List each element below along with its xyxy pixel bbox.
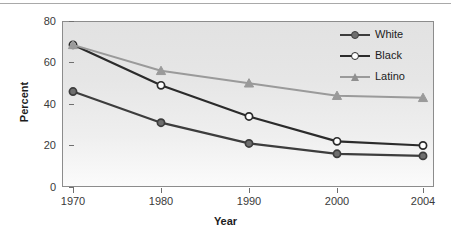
legend-swatch-latino — [340, 71, 370, 82]
legend-label-black: Black — [375, 49, 402, 61]
marker-open-circle — [419, 142, 426, 149]
legend-item-white[interactable]: White — [340, 28, 405, 40]
legend-label-white: White — [375, 28, 403, 40]
marker-open-circle — [333, 138, 340, 145]
marker-filled-circle — [157, 119, 164, 126]
marker-filled-circle — [245, 140, 252, 147]
marker-filled-circle — [69, 88, 76, 95]
legend-item-black[interactable]: Black — [340, 49, 405, 61]
chart-figure: 80 60 40 20 0 Percent 1970 1980 1990 200… — [0, 0, 451, 239]
marker-filled-circle — [419, 152, 426, 159]
series-white — [69, 88, 426, 160]
open-circle-icon — [351, 52, 359, 60]
marker-filled-circle — [333, 150, 340, 157]
legend-item-latino[interactable]: Latino — [340, 70, 405, 82]
legend-label-latino: Latino — [375, 70, 405, 82]
legend-swatch-black — [340, 50, 370, 61]
filled-circle-icon — [351, 31, 359, 39]
marker-open-circle — [157, 82, 164, 89]
legend-swatch-white — [340, 29, 370, 40]
marker-open-circle — [245, 113, 252, 120]
filled-triangle-icon — [351, 73, 359, 81]
legend: White Black Latino — [340, 28, 405, 82]
